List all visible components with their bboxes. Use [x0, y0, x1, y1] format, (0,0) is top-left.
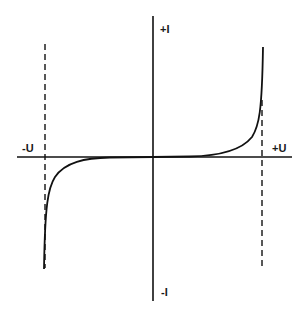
iu-characteristic-diagram	[0, 0, 305, 313]
x-negative-label: -U	[22, 143, 34, 154]
y-positive-label: +I	[160, 24, 169, 35]
y-negative-label: -I	[161, 287, 168, 298]
characteristic-curve-negative	[44, 157, 153, 269]
characteristic-curve-positive	[153, 47, 263, 157]
x-positive-label: +U	[272, 143, 286, 154]
